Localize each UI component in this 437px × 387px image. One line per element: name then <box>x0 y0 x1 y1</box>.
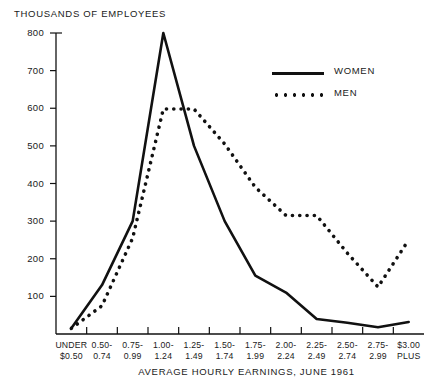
series-line-women <box>71 33 408 328</box>
chart-figure: THOUSANDS OF EMPLOYEES WOMEN MEN AVERAGE… <box>0 0 437 387</box>
y-axis-tick-label: 100 <box>10 290 44 301</box>
legend-key-solid-line-icon <box>272 72 324 75</box>
legend-label-men: MEN <box>334 87 357 98</box>
legend-label-women: WOMEN <box>334 65 375 76</box>
legend-key-dotted-line-icon <box>272 93 324 97</box>
y-axis-tick-label: 500 <box>10 140 44 151</box>
x-axis-tick-label: $3.00PLUS <box>385 340 433 362</box>
x-axis-tick-label-line: PLUS <box>385 351 433 362</box>
y-axis-tick-label: 600 <box>10 102 44 113</box>
y-axis-tick-label: 700 <box>10 65 44 76</box>
y-axis-tick-label: 800 <box>10 27 44 38</box>
x-axis-title: AVERAGE HOURLY EARNINGS, JUNE 1961 <box>0 366 437 377</box>
y-axis-title: THOUSANDS OF EMPLOYEES <box>14 8 166 19</box>
series-line-men <box>71 109 408 328</box>
x-axis-tick-label-line: $3.00 <box>385 340 433 351</box>
chart-plot-area <box>0 0 437 387</box>
y-axis-tick-label: 400 <box>10 178 44 189</box>
y-axis-tick-label: 200 <box>10 253 44 264</box>
y-axis-tick-label: 300 <box>10 215 44 226</box>
